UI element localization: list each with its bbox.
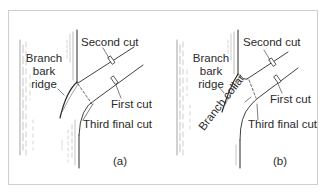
panel-b-caption: (b) [273,155,287,168]
panel-a-caption: (a) [113,155,127,168]
panel-b-label-first-cut: First cut [270,93,311,106]
panel-a-label-first-cut: First cut [111,98,152,111]
panel-a-trunk [20,30,79,168]
panel-a-label-ridge: ridge [24,78,64,91]
panel-a-label-second-cut: Second cut [81,36,139,49]
panel-b-label-second-cut: Second cut [243,36,301,49]
panel-a-label-third-final-cut: Third final cut [83,118,152,131]
panel-a-label-branch: Branch [24,52,64,65]
panel-b-label-bark: bark [191,65,231,78]
panel-b-label-branch-bark-ridge: Branch bark ridge [191,52,231,91]
panel-b-label-branch: Branch [191,52,231,65]
panel-a-label-branch-bark-ridge: Branch bark ridge [24,52,64,91]
panel-a-label-bark: bark [24,65,64,78]
panel-b-label-third-final-cut: Third final cut [248,118,317,131]
